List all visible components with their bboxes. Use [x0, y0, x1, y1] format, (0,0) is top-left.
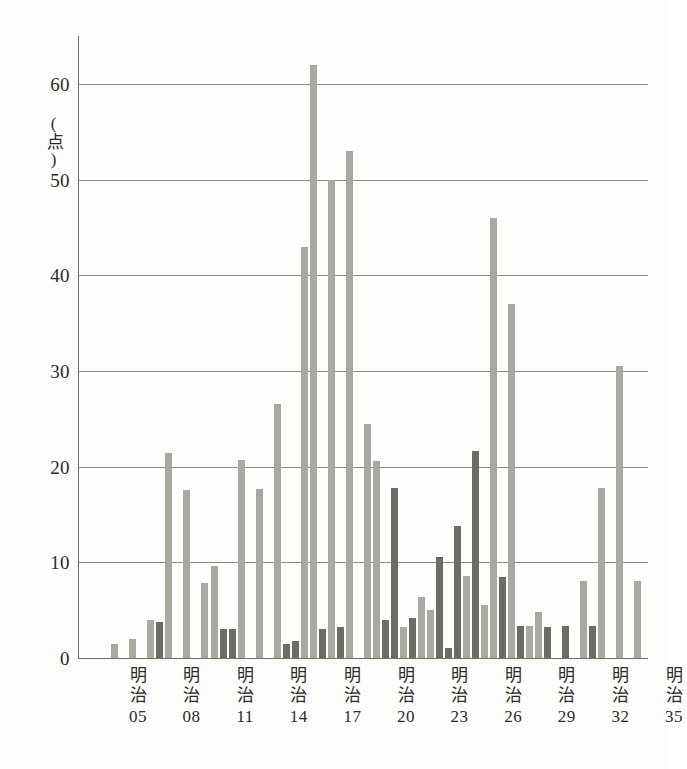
y-tick-label-30: 30	[34, 362, 70, 381]
bar	[409, 618, 416, 658]
bar	[310, 65, 317, 658]
y-tick-label-10: 10	[34, 553, 70, 572]
bar	[508, 304, 515, 658]
y-tick-label-0: 0	[34, 649, 70, 668]
bar	[400, 627, 407, 658]
bar	[472, 451, 479, 658]
bar	[129, 639, 136, 658]
era-char-first: 明	[282, 666, 316, 686]
bar	[111, 644, 118, 658]
bar	[427, 610, 434, 658]
bar	[147, 620, 154, 658]
bar	[165, 453, 172, 658]
era-year-number: 05	[121, 706, 155, 728]
era-char-second: 治	[443, 686, 477, 706]
era-char-first: 明	[443, 666, 477, 686]
era-char-second: 治	[175, 686, 209, 706]
x-tick-label-26: 明治26	[496, 666, 530, 728]
bar	[535, 612, 542, 658]
bar	[156, 622, 163, 658]
era-char-first: 明	[228, 666, 262, 686]
bar	[364, 424, 371, 658]
era-year-number: 17	[335, 706, 369, 728]
era-char-first: 明	[175, 666, 209, 686]
era-char-first: 明	[389, 666, 423, 686]
era-char-first: 明	[603, 666, 637, 686]
y-tick-label-50: 50	[34, 171, 70, 190]
bar	[589, 626, 596, 658]
bar	[328, 180, 335, 658]
y-tick-label-60: 60	[34, 75, 70, 94]
era-char-second: 治	[657, 686, 687, 706]
era-char-second: 治	[282, 686, 316, 706]
x-tick-label-35: 明治35	[657, 666, 687, 728]
x-tick-label-11: 明治11	[228, 666, 262, 728]
bar	[256, 489, 263, 658]
bar	[436, 557, 443, 658]
bar	[274, 404, 281, 658]
bar	[373, 461, 380, 658]
era-year-number: 08	[175, 706, 209, 728]
era-char-second: 治	[603, 686, 637, 706]
bar	[283, 644, 290, 658]
era-char-second: 治	[389, 686, 423, 706]
era-year-number: 32	[603, 706, 637, 728]
bar	[346, 151, 353, 658]
x-tick-label-8: 明治08	[175, 666, 209, 728]
bar	[238, 460, 245, 658]
bar	[598, 488, 605, 658]
bar	[463, 576, 470, 658]
x-axis-line	[78, 658, 648, 659]
bar	[544, 627, 551, 658]
era-year-number: 29	[550, 706, 584, 728]
x-tick-label-29: 明治29	[550, 666, 584, 728]
bar	[229, 629, 236, 658]
bar	[562, 626, 569, 658]
bar	[220, 629, 227, 658]
bar	[517, 626, 524, 658]
era-char-first: 明	[550, 666, 584, 686]
bar	[490, 218, 497, 658]
x-tick-label-5: 明治05	[121, 666, 155, 728]
bar	[481, 605, 488, 658]
bar	[634, 581, 641, 658]
x-tick-label-14: 明治14	[282, 666, 316, 728]
bar	[337, 627, 344, 658]
bar	[418, 597, 425, 658]
era-char-first: 明	[496, 666, 530, 686]
era-char-first: 明	[657, 666, 687, 686]
bar	[445, 648, 452, 658]
y-axis-unit-label: (点)	[36, 114, 62, 169]
bar	[292, 641, 299, 658]
bar	[391, 488, 398, 658]
era-char-second: 治	[496, 686, 530, 706]
era-year-number: 26	[496, 706, 530, 728]
era-year-number: 20	[389, 706, 423, 728]
era-year-number: 23	[443, 706, 477, 728]
era-char-first: 明	[335, 666, 369, 686]
x-tick-label-20: 明治20	[389, 666, 423, 728]
bar	[454, 526, 461, 658]
bar	[382, 620, 389, 658]
bar	[319, 629, 326, 658]
era-char-second: 治	[550, 686, 584, 706]
era-char-second: 治	[121, 686, 155, 706]
bar	[616, 366, 623, 658]
y-tick-label-40: 40	[34, 266, 70, 285]
bar	[301, 247, 308, 658]
era-char-second: 治	[335, 686, 369, 706]
x-tick-label-23: 明治23	[443, 666, 477, 728]
x-tick-label-17: 明治17	[335, 666, 369, 728]
era-year-number: 11	[228, 706, 262, 728]
x-axis-labels: 明治05明治08明治11明治14明治17明治20明治23明治26明治29明治32…	[78, 666, 648, 766]
y-tick-label-20: 20	[34, 458, 70, 477]
bar-series	[78, 36, 648, 658]
bar	[526, 626, 533, 658]
era-year-number: 35	[657, 706, 687, 728]
era-char-first: 明	[121, 666, 155, 686]
bar	[211, 566, 218, 658]
bar	[201, 583, 208, 658]
bar	[183, 490, 190, 658]
bar	[580, 581, 587, 658]
